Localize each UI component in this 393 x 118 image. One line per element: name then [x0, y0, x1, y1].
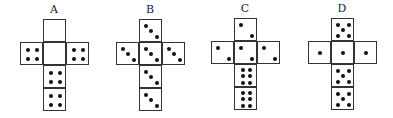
pip	[132, 58, 136, 62]
pip	[239, 46, 243, 50]
pip	[49, 71, 53, 75]
pip	[144, 24, 148, 28]
pip	[144, 47, 148, 51]
pip	[35, 57, 39, 61]
pip	[58, 80, 62, 84]
face-a-right	[66, 42, 89, 65]
pip	[336, 34, 340, 38]
pip	[178, 58, 182, 62]
face-c-below1	[234, 64, 257, 87]
face-c-left	[211, 41, 234, 64]
face-b-below2	[139, 88, 162, 111]
pip	[336, 92, 340, 96]
pip	[81, 48, 85, 52]
pip	[248, 97, 252, 101]
face-c-top	[234, 18, 257, 41]
net-label-a: A	[42, 3, 66, 16]
pip	[121, 47, 125, 51]
pip	[248, 91, 252, 95]
face-a-center	[43, 42, 66, 65]
pip	[248, 81, 252, 85]
pip	[364, 51, 368, 55]
pip	[347, 92, 351, 96]
net-label-d: D	[330, 2, 354, 15]
pip	[262, 46, 266, 50]
pip	[58, 71, 62, 75]
pip	[347, 34, 351, 38]
pip	[248, 74, 252, 78]
pip	[239, 23, 243, 27]
face-b-left	[116, 42, 139, 65]
pip	[248, 104, 252, 108]
pip	[155, 81, 159, 85]
pip	[149, 98, 153, 102]
pip	[347, 69, 351, 73]
pip	[149, 75, 153, 79]
pip	[49, 103, 53, 107]
face-d-below2	[331, 87, 354, 110]
net-label-b: B	[138, 3, 162, 16]
pip	[318, 51, 322, 55]
pip	[273, 57, 277, 61]
pip	[172, 52, 176, 56]
net-label-c: C	[233, 2, 257, 15]
pip	[241, 104, 245, 108]
pip	[241, 81, 245, 85]
pip	[341, 97, 345, 101]
pip	[227, 57, 231, 61]
pip	[155, 35, 159, 39]
pip	[72, 57, 76, 61]
pip	[126, 52, 130, 56]
pip	[167, 47, 171, 51]
face-d-top	[331, 18, 354, 41]
face-a-left	[20, 42, 43, 65]
pip	[241, 68, 245, 72]
pip	[336, 23, 340, 27]
face-d-center	[331, 41, 354, 64]
pip	[336, 69, 340, 73]
face-b-top	[139, 19, 162, 42]
face-a-top	[43, 19, 66, 42]
pip	[347, 23, 351, 27]
pip	[347, 103, 351, 107]
pip	[26, 48, 30, 52]
pip	[216, 46, 220, 50]
face-a-below2	[43, 88, 66, 111]
face-c-below2	[234, 87, 257, 110]
pip	[58, 94, 62, 98]
face-b-center	[139, 42, 162, 65]
face-d-left	[308, 41, 331, 64]
pip	[250, 57, 254, 61]
pip	[336, 103, 340, 107]
pip	[250, 34, 254, 38]
pip	[248, 68, 252, 72]
pip	[49, 80, 53, 84]
pip	[241, 91, 245, 95]
pip	[341, 28, 345, 32]
face-b-right	[162, 42, 185, 65]
face-c-center	[234, 41, 257, 64]
pip	[58, 103, 62, 107]
pip	[241, 97, 245, 101]
pip	[49, 94, 53, 98]
pip	[72, 48, 76, 52]
pip	[35, 48, 39, 52]
pip	[149, 52, 153, 56]
face-d-below1	[331, 64, 354, 87]
face-d-right	[354, 41, 377, 64]
pip	[149, 29, 153, 33]
face-b-below1	[139, 65, 162, 88]
pip	[341, 51, 345, 55]
pip	[144, 70, 148, 74]
face-c-right	[257, 41, 280, 64]
pip	[347, 80, 351, 84]
pip	[155, 58, 159, 62]
pip	[341, 74, 345, 78]
face-a-below1	[43, 65, 66, 88]
pip	[26, 57, 30, 61]
pip	[81, 57, 85, 61]
pip	[241, 74, 245, 78]
pip	[336, 80, 340, 84]
pip	[155, 104, 159, 108]
pip	[144, 93, 148, 97]
